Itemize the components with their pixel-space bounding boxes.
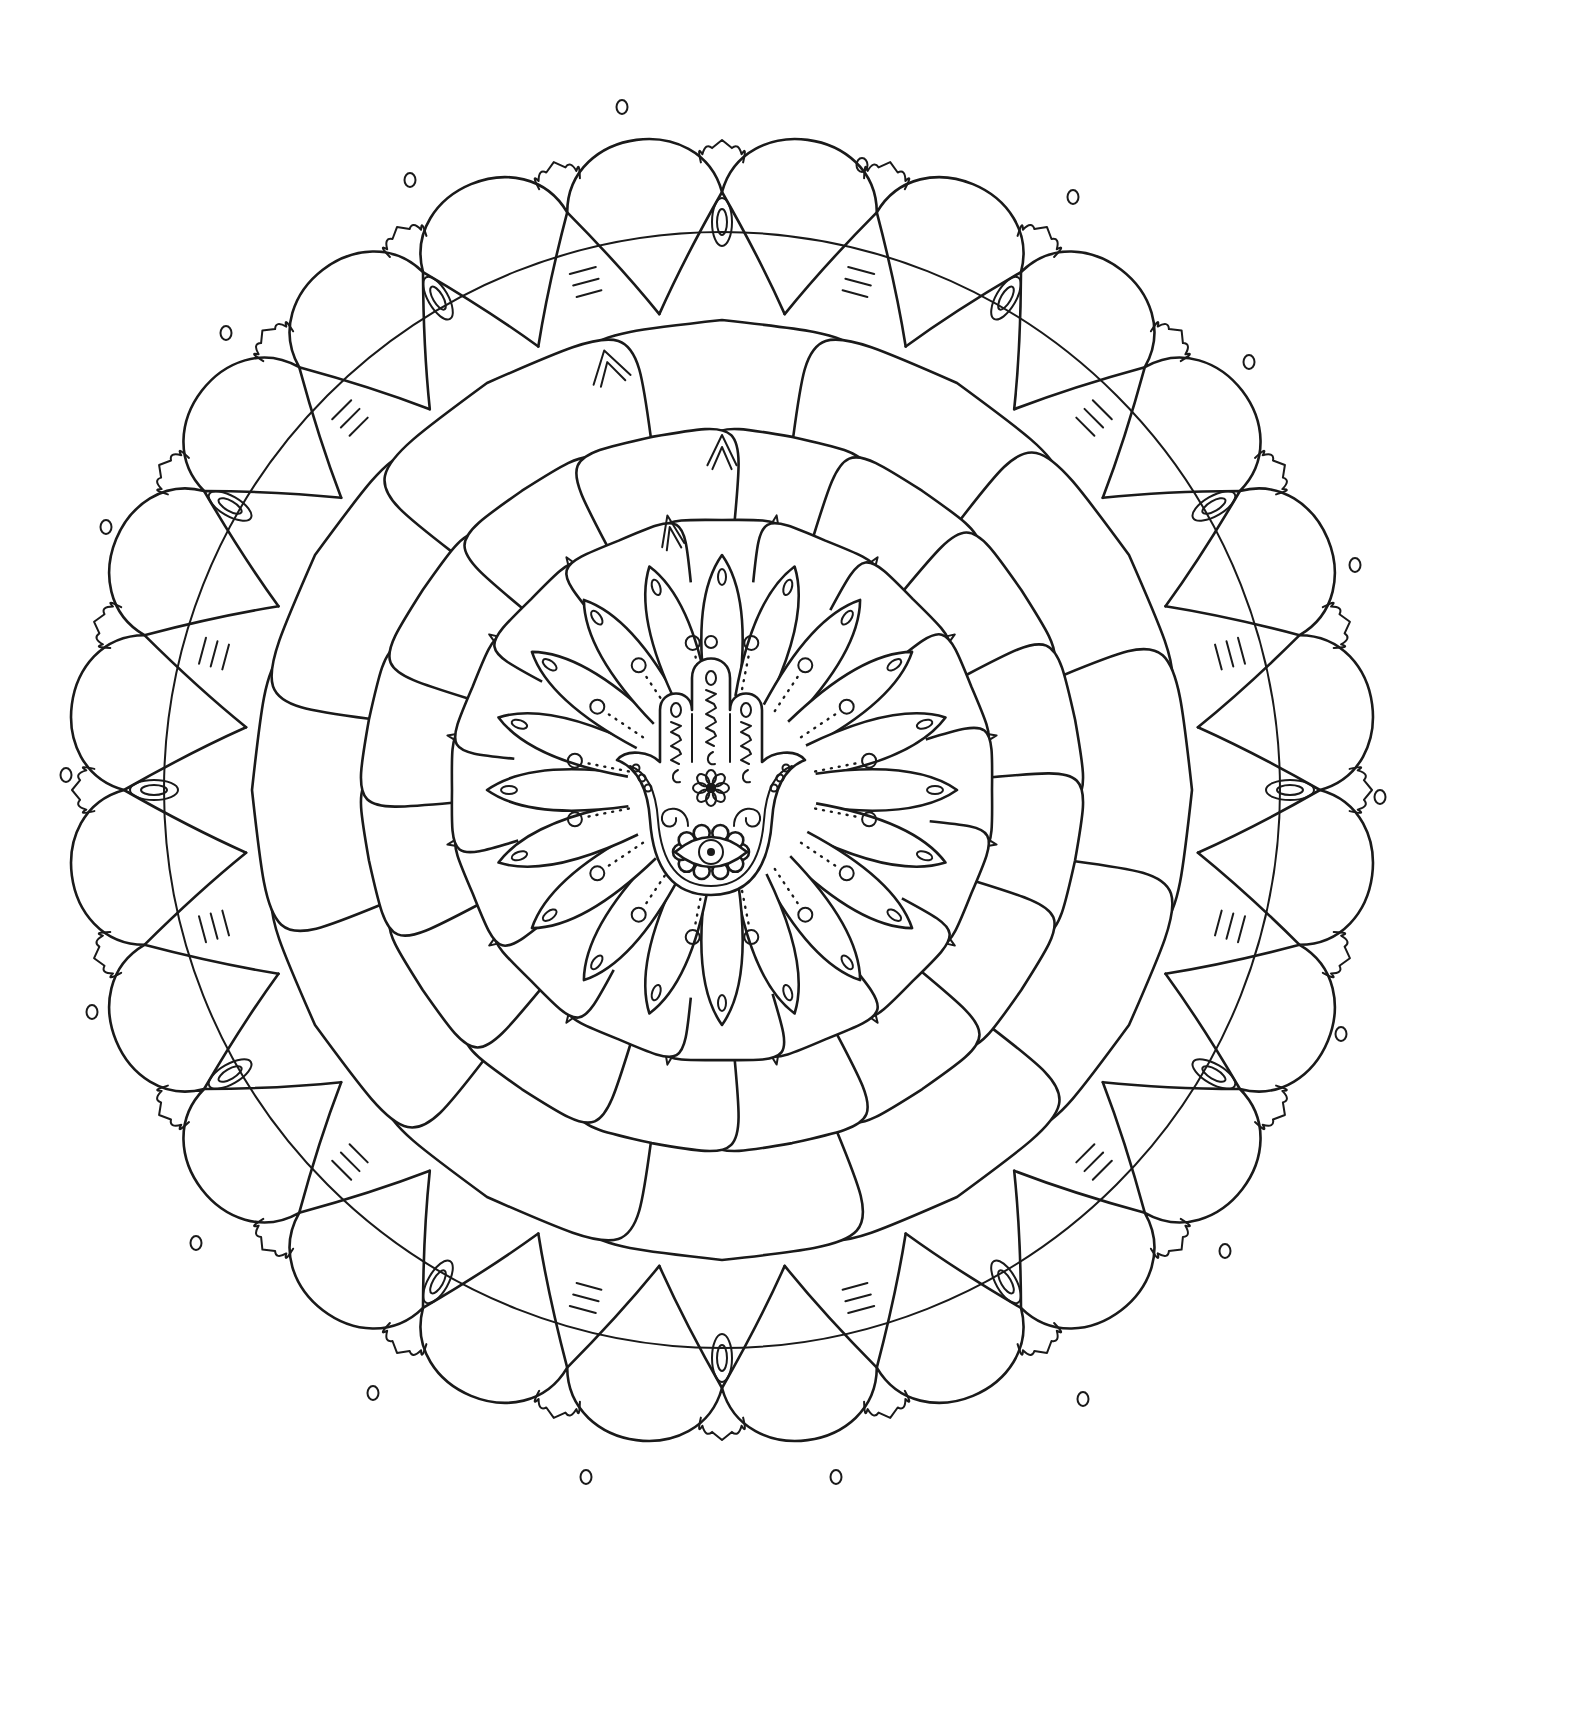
- crown-cusp: [699, 140, 745, 162]
- teardrop-spoke: [659, 192, 784, 314]
- petal-stripe: [1085, 409, 1104, 428]
- crown-cusp: [254, 322, 293, 361]
- petal-stripe: [199, 916, 206, 942]
- mandala-canvas: [0, 0, 1589, 1717]
- loop-knot-inner: [995, 1268, 1017, 1296]
- floating-dot: [1350, 558, 1361, 572]
- mandala-artwork: [0, 0, 1589, 1717]
- floating-dot: [1336, 1027, 1347, 1041]
- petal-stripe: [199, 638, 206, 664]
- petal-stripe: [1227, 913, 1234, 938]
- floating-dot: [221, 326, 232, 340]
- floating-dot: [1078, 1392, 1089, 1406]
- loop-knot-inner: [1200, 495, 1228, 517]
- petal-stripe: [848, 1306, 874, 1313]
- petal-stripe: [211, 913, 218, 938]
- floating-dot: [1068, 190, 1079, 204]
- loop-knot-inner: [995, 284, 1017, 312]
- loop-knot-inner: [1200, 1063, 1228, 1085]
- loop-knot-inner: [216, 495, 244, 517]
- petal-stripe: [845, 1295, 870, 1302]
- petal-stripe: [570, 267, 596, 274]
- floating-dot: [581, 1470, 592, 1484]
- loop-knot: [130, 780, 178, 800]
- petal-stripe: [573, 1295, 598, 1302]
- petal-stripe: [1215, 911, 1222, 936]
- teardrop-spoke: [1198, 727, 1320, 852]
- crown-cusp: [1151, 1219, 1190, 1258]
- petal-stripe: [1215, 645, 1222, 670]
- petal-stripe: [577, 290, 602, 297]
- petal-stripe: [332, 400, 351, 419]
- petal-stripe: [1238, 638, 1245, 664]
- petal-stripe: [848, 267, 874, 274]
- crown-cusp: [254, 1219, 293, 1258]
- loop-knot-inner: [216, 1063, 244, 1085]
- petal-stripe: [341, 1153, 360, 1172]
- petal-stripe: [211, 641, 218, 666]
- petal-stripe: [573, 279, 598, 286]
- floating-dot: [61, 768, 72, 782]
- flower-center: [706, 783, 716, 793]
- petal-stripe: [845, 279, 870, 286]
- petal-stripe: [1093, 1161, 1112, 1180]
- petal-stripe: [332, 1161, 351, 1180]
- petal-stripe: [577, 1283, 602, 1290]
- floating-dot: [101, 520, 112, 534]
- loop-knot: [1266, 780, 1314, 800]
- petal-stripe: [222, 911, 229, 936]
- loop-knot: [712, 1334, 732, 1382]
- petal-stripe: [1076, 418, 1094, 436]
- petal-stripe: [570, 1306, 596, 1313]
- petal-stripe: [350, 1144, 368, 1162]
- floating-dot: [368, 1386, 379, 1400]
- crown-cusp: [699, 1418, 745, 1440]
- petal-stripe: [1076, 1144, 1094, 1162]
- petal-stripe: [350, 418, 368, 436]
- floating-dot: [1220, 1244, 1231, 1258]
- crown-cusp: [1151, 322, 1190, 361]
- floating-dot: [87, 1005, 98, 1019]
- floating-dot: [405, 173, 416, 187]
- petal-stripe: [843, 1283, 868, 1290]
- crown-cusp: [72, 767, 94, 813]
- floating-dot: [1375, 790, 1386, 804]
- eye-pupil: [707, 848, 715, 856]
- petal-stripe: [1093, 400, 1112, 419]
- petal-stripe: [222, 645, 229, 670]
- loop-knot: [712, 198, 732, 246]
- petal-stripe: [843, 290, 868, 297]
- teardrop-spoke: [124, 727, 246, 852]
- loop-knot-inner: [427, 284, 449, 312]
- floating-dot: [617, 100, 628, 114]
- teardrop-spoke: [659, 1266, 784, 1388]
- petal-stripe: [341, 409, 360, 428]
- crown-cusp: [1350, 767, 1372, 813]
- petal-stripe: [1238, 916, 1245, 942]
- petal-stripe: [1227, 641, 1234, 666]
- floating-dot: [1244, 355, 1255, 369]
- floating-dot: [191, 1236, 202, 1250]
- floating-dot: [831, 1470, 842, 1484]
- petal-stripe: [1085, 1153, 1104, 1172]
- loop-knot-inner: [427, 1268, 449, 1296]
